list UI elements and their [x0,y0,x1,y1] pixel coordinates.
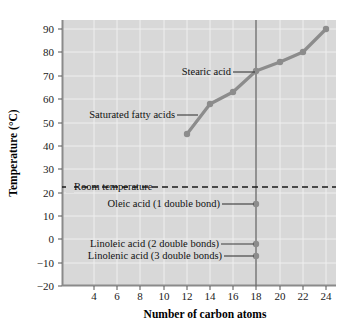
y-tick-label: 70 [43,70,55,82]
x-tick-label: 6 [114,290,120,302]
x-tick-labels: 4 6 8 10 12 14 16 18 20 22 24 [91,290,332,302]
y-tick-label: −10 [37,257,55,269]
data-point [323,26,329,32]
y-tick-label: 40 [43,140,55,152]
annotation-linoleic-acid: Linoleic acid (2 double bonds) [90,238,219,250]
y-tick-labels: 90 80 70 60 50 40 30 20 10 0 −10 −20 [37,23,55,292]
y-axis-title: Temperature (°C) [7,109,20,196]
annotation-saturated-fatty-acids: Saturated fatty acids [89,109,175,120]
chart-svg: 90 80 70 60 50 40 30 20 10 0 −10 −20 4 6… [0,0,344,331]
x-tick-label: 22 [298,290,309,302]
x-tick-label: 10 [159,290,171,302]
x-axis-title: Number of carbon atoms [144,308,267,320]
x-tick-label: 14 [205,290,217,302]
data-point [277,59,283,65]
y-tick-label: 50 [43,117,55,129]
x-tick-label: 4 [91,290,97,302]
y-tick-label: 20 [43,187,55,199]
data-point [230,89,236,95]
data-point [184,131,190,137]
x-tick-label: 16 [228,290,240,302]
data-point [300,49,306,55]
x-tick-label: 18 [251,290,263,302]
y-tick-label: 90 [43,23,55,35]
data-point [207,101,213,107]
x-tick-label: 8 [137,290,143,302]
fatty-acid-melting-point-chart: 90 80 70 60 50 40 30 20 10 0 −10 −20 4 6… [0,0,344,331]
label-mask [66,181,74,193]
y-tick-label: 80 [43,46,55,58]
annotation-linolenic-acid: Linolenic acid (3 double bonds) [88,250,223,262]
annotation-room-temperature: Room temperature [74,181,153,192]
x-tick-label: 12 [182,290,193,302]
y-tick-label: −20 [37,280,55,292]
x-tick-label: 20 [275,290,287,302]
annotation-oleic-acid: Oleic acid (1 double bond) [107,198,220,210]
y-tick-label: 10 [43,210,55,222]
x-tick-label: 24 [321,290,333,302]
y-tick-label: 30 [43,163,55,175]
annotation-stearic-acid: Stearic acid [182,66,232,77]
data-point [253,68,259,74]
y-tick-marks [58,29,62,286]
y-tick-label: 0 [49,233,55,245]
y-tick-label: 60 [43,93,55,105]
